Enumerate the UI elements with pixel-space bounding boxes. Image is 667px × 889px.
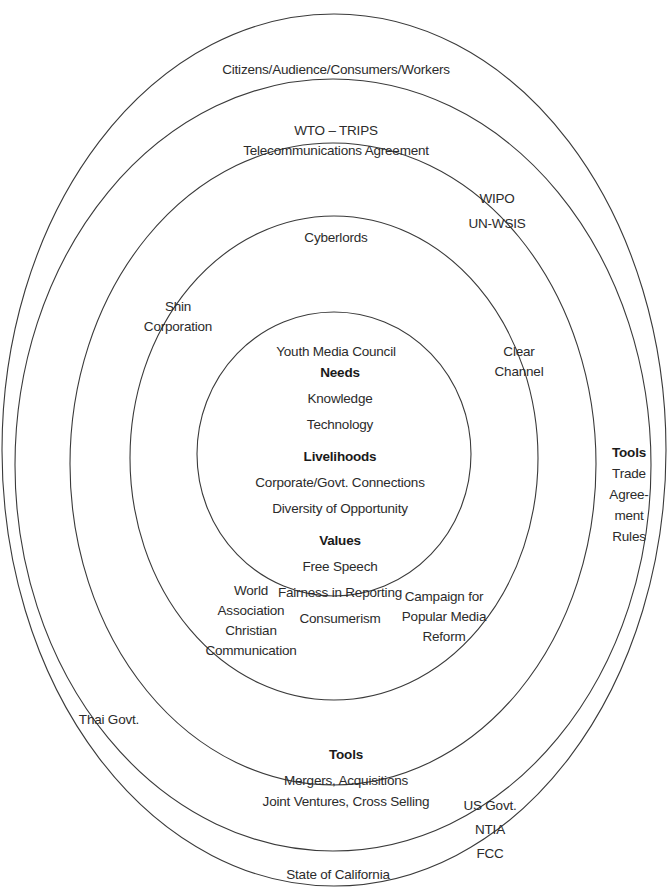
livelihoods-heading: Livelihoods [255,444,424,470]
label-clear-channel: Clear Channel [495,342,544,382]
label-wacc: World Association Christian Communicatio… [205,581,296,661]
label-cyberlords: Cyberlords [304,228,367,248]
label-wipo: WIPO UN-WSIS [468,186,525,236]
needs-heading: Needs [255,360,424,386]
label-us-govt: US Govt. NTIA FCC [463,794,516,866]
label-thai-govt: Thai Govt. [79,710,139,730]
label-campaign-media-reform: Campaign for Popular Media Reform [402,587,486,647]
label-youth-media-council: Youth Media Council [276,342,396,362]
label-inner-tools: Tools Mergers, Acquisitions Joint Ventur… [263,744,430,812]
label-citizens: Citizens/Audience/Consumers/Workers [222,60,450,80]
values-heading: Values [255,528,424,554]
label-shin-corporation: Shin Corporation [144,297,212,337]
label-outer-tools: Tools Trade Agree- ment Rules [609,443,648,547]
label-wto-trips: WTO – TRIPS Telecommunications Agreement [243,121,429,161]
label-state-of-california: State of California [286,865,390,885]
